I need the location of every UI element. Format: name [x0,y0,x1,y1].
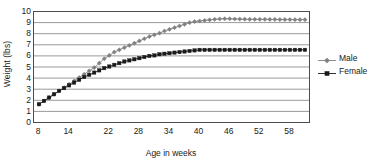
series-line [39,19,305,104]
y-tick-label: 5 [14,62,31,71]
data-point-marker [143,55,146,58]
x-axis-title: Age in weeks [33,148,309,158]
y-tick-label: 9 [14,18,31,27]
data-point-marker [167,27,171,31]
data-point-marker [208,48,211,51]
data-point-marker [193,49,196,52]
data-point-marker [172,26,176,30]
x-axis-tick-labels: 81422283440465258 [33,124,309,138]
data-point-marker [183,50,186,53]
x-tick-label: 8 [36,127,41,136]
data-point-marker [213,48,216,51]
data-point-marker [243,48,246,51]
legend-label: Male [339,53,357,63]
data-point-marker [258,48,261,51]
plot-area [33,11,310,123]
data-point-marker [103,66,106,69]
data-point-marker [122,46,126,50]
data-point-marker [198,48,201,51]
legend-item-male[interactable]: Male [318,51,376,64]
data-point-marker [188,49,191,52]
data-point-marker [303,48,306,51]
data-point-marker [263,17,267,21]
data-point-marker [228,48,231,51]
data-point-marker [123,60,126,63]
data-point-marker [283,48,286,51]
data-point-marker [108,65,111,68]
y-tick-label: 8 [14,29,31,38]
x-tick-label: 14 [63,127,72,136]
data-point-marker [173,51,176,54]
plot-svg [34,11,310,122]
data-point-marker [153,54,156,57]
x-tick-label: 52 [254,127,263,136]
data-point-marker [278,48,281,51]
legend-item-female[interactable]: Female [318,64,376,77]
data-point-marker [223,17,227,21]
data-point-marker [158,53,161,56]
data-point-marker [258,17,262,21]
data-point-marker [268,17,272,21]
data-point-marker [128,59,131,62]
data-point-marker [298,48,301,51]
y-tick-label: 4 [14,73,31,82]
data-point-marker [233,17,237,21]
y-tick-label: 1 [14,107,31,116]
data-point-marker [47,96,50,99]
data-point-marker [57,89,60,92]
data-point-marker [67,84,70,87]
legend-label: Female [339,66,367,76]
data-point-marker [88,73,91,76]
data-point-marker [148,54,151,57]
data-point-marker [223,48,226,51]
data-point-marker [248,48,251,51]
data-point-marker [288,48,291,51]
data-point-marker [187,21,191,25]
y-tick-label: 7 [14,40,31,49]
data-point-marker [168,51,171,54]
data-point-marker [93,71,96,74]
data-point-marker [208,18,212,22]
data-point-marker [52,93,55,96]
data-point-marker [142,37,146,41]
data-point-marker [253,48,256,51]
data-point-marker [117,48,121,52]
y-axis-title-text: Weight (lbs) [2,41,12,87]
data-point-marker [127,43,131,47]
data-point-marker [293,48,296,51]
data-point-marker [218,17,222,21]
data-point-marker [137,39,141,43]
weight-by-age-chart: Weight (lbs) 012345678910 81422283440465… [0,0,377,168]
data-point-marker [138,56,141,59]
data-point-marker [177,24,181,28]
data-point-marker [42,99,45,102]
data-point-marker [283,17,287,21]
x-tick-label: 40 [194,127,203,136]
data-point-marker [278,17,282,21]
y-axis-tick-labels: 012345678910 [14,0,31,168]
data-point-marker [303,18,307,22]
y-tick-label: 2 [14,96,31,105]
x-tick-label: 58 [284,127,293,136]
data-point-marker [72,81,75,84]
data-point-marker [218,48,221,51]
data-point-marker [248,17,252,21]
data-point-marker [163,52,166,55]
y-tick-label: 10 [14,7,31,16]
data-point-marker [77,78,80,81]
data-point-marker [113,63,116,66]
data-point-marker [238,48,241,51]
square-marker-icon [318,65,336,76]
data-point-marker [37,103,40,106]
data-point-marker [243,17,247,21]
chart-legend: MaleFemale [318,51,376,77]
data-point-marker [273,48,276,51]
data-point-marker [268,48,271,51]
data-point-marker [253,17,257,21]
data-point-marker [228,17,232,21]
y-tick-label: 6 [14,51,31,60]
data-point-marker [238,17,242,21]
data-point-marker [62,86,65,89]
data-point-marker [157,31,161,35]
y-tick-label: 0 [14,118,31,127]
